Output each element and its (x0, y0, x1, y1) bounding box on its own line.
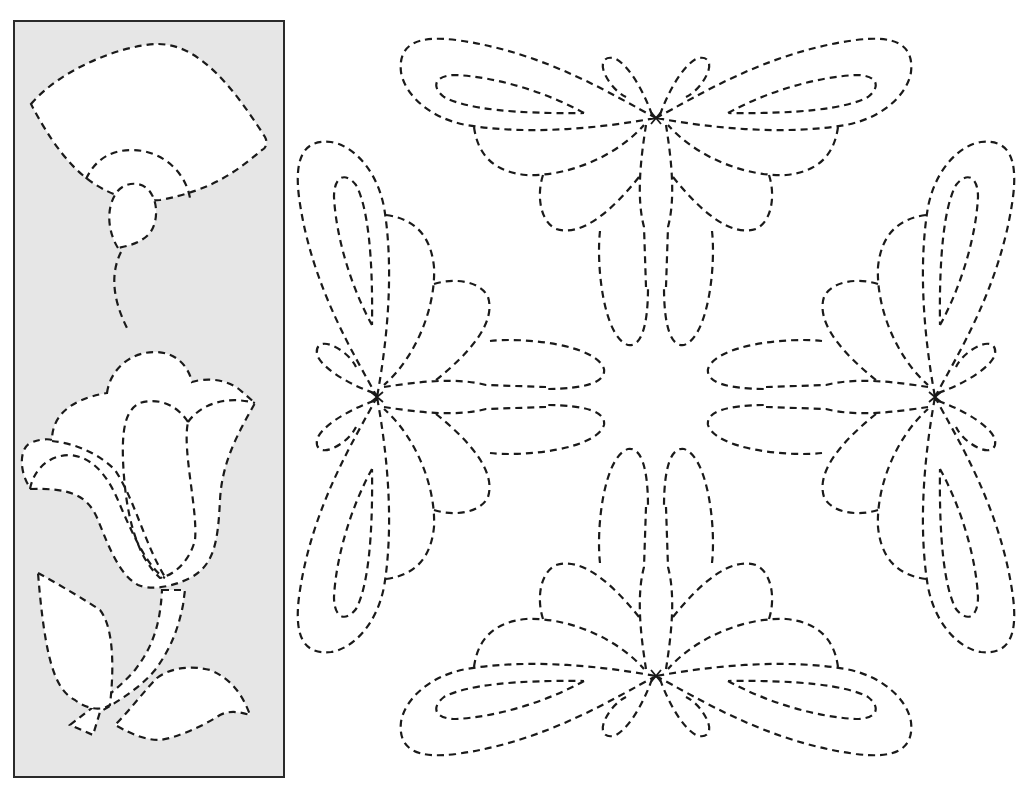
left-bow-motif (298, 142, 604, 653)
right-bow-motif (708, 142, 1014, 653)
wreath-block (0, 0, 1029, 785)
top-bow-motif (401, 39, 912, 345)
bottom-bow-motif (401, 449, 912, 755)
stencil-sheet: Quilting stencil patterns Fan flower and… (0, 0, 1029, 785)
